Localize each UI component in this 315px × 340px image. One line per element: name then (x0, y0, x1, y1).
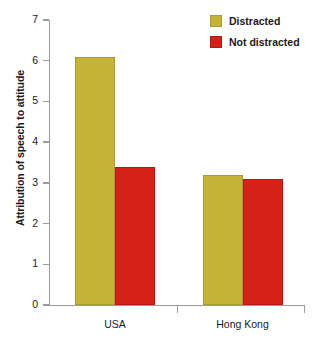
y-axis-tick-label: 7 (8, 14, 38, 25)
legend-item-distracted[interactable]: Distracted (210, 12, 300, 30)
bar-distracted-hong-kong (203, 175, 243, 305)
legend-swatch-distracted-icon (210, 15, 222, 27)
bar-not-distracted-usa (115, 167, 155, 305)
legend-swatch-not-distracted-icon (210, 36, 222, 48)
bar-chart: Attribution of speech to attitude 012345… (0, 0, 315, 340)
y-axis-tick-label: 0 (8, 299, 38, 310)
bar-not-distracted-hong-kong (243, 179, 283, 305)
chart-legend: Distracted Not distracted (210, 12, 300, 54)
y-axis-title: Attribution of speech to attitude (14, 58, 26, 238)
x-axis-category-tick (177, 306, 178, 313)
legend-item-not-distracted[interactable]: Not distracted (210, 33, 300, 51)
y-axis-tick-label: 1 (8, 258, 38, 269)
bar-distracted-usa (75, 57, 115, 305)
x-axis-label-usa: USA (55, 318, 175, 330)
x-axis-label-hong-kong: Hong Kong (183, 318, 303, 330)
x-axis-category-tick (304, 306, 305, 313)
y-axis-tick-label: 5 (8, 95, 38, 106)
y-axis-tick-label: 3 (8, 177, 38, 188)
y-axis-tick-label: 2 (8, 218, 38, 229)
y-axis-tick-label: 6 (8, 55, 38, 66)
legend-label-not-distracted: Not distracted (229, 36, 300, 48)
plot-area (49, 20, 304, 305)
legend-label-distracted: Distracted (229, 15, 280, 27)
y-axis-tick-label: 4 (8, 136, 38, 147)
